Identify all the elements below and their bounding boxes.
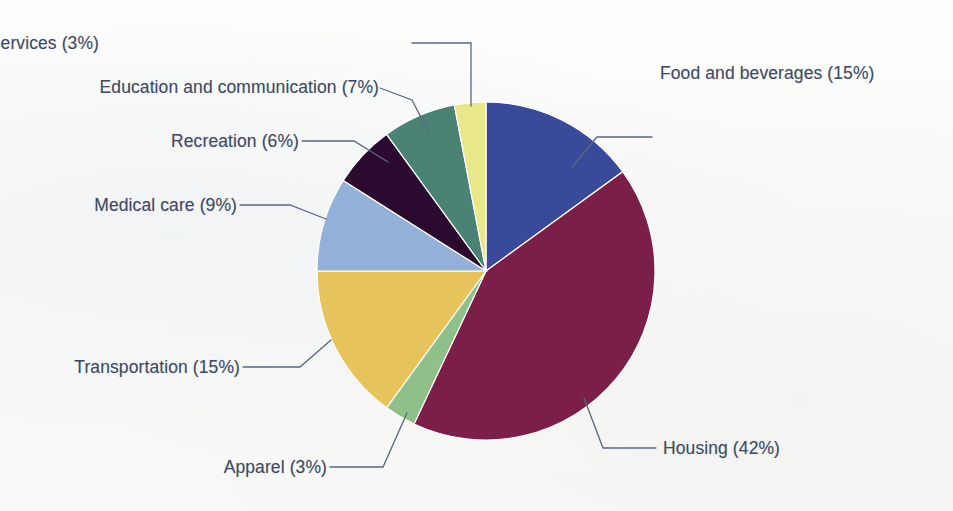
pie-label-housing: Housing (42%): [663, 440, 780, 458]
pie-label-medical-care: Medical care (9%): [94, 197, 237, 215]
leader-line-housing: [584, 398, 656, 448]
leader-line-transportation: [243, 340, 331, 367]
pie-label-education-and-communication: Education and communication (7%): [100, 79, 379, 97]
pie-label-transportation: Transportation (15%): [74, 359, 240, 377]
pie-label-recreation: Recreation (6%): [171, 133, 299, 151]
leader-line-apparel: [330, 413, 407, 467]
pie-label-apparel: Apparel (3%): [224, 459, 327, 477]
pie-slices: [317, 102, 655, 440]
pie-label-food-and-beverages: Food and beverages (15%): [660, 65, 874, 83]
pie-chart-page: Other goods and services (3%) Education …: [0, 0, 953, 511]
leader-line-medical-care: [240, 205, 326, 219]
leader-line-other-goods-and-services: [412, 43, 471, 106]
pie-label-other-goods-and-services: Other goods and services (3%): [0, 35, 99, 53]
